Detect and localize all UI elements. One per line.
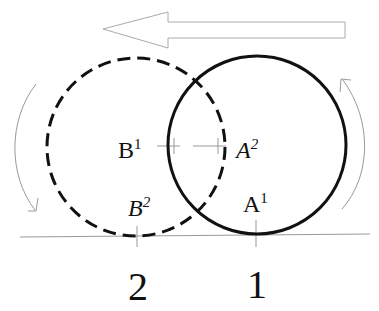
rotation-arrow-left-icon: [15, 84, 38, 211]
rolling-circle-diagram: B1 A2 B2 A1 2 1: [0, 0, 379, 311]
position-label-2: 2: [128, 264, 148, 309]
label-a2: A2: [234, 136, 259, 163]
label-b2: B2: [128, 194, 151, 221]
label-a1: A1: [243, 190, 268, 217]
label-b1: B1: [118, 136, 142, 163]
rotation-arrow-right-icon: [340, 79, 365, 209]
position-label-1: 1: [247, 262, 267, 307]
ground-line: [20, 234, 370, 237]
direction-arrow-icon: [103, 12, 345, 48]
